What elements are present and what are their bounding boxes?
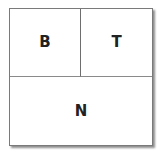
- region-b-label: B: [39, 35, 50, 50]
- region-t: T: [81, 9, 152, 77]
- region-n: N: [10, 77, 152, 145]
- region-n-label: N: [75, 104, 88, 119]
- region-t-label: T: [111, 35, 121, 50]
- region-b: B: [10, 9, 81, 77]
- layout-diagram-box: B T N: [9, 8, 153, 146]
